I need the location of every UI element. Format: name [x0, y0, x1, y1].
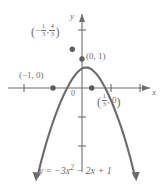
equation-term-constant: + 1	[98, 165, 112, 176]
y-intercept-label: (0, 1)	[86, 52, 106, 61]
vertex-point-label: (−13,43)	[31, 23, 59, 39]
vertex-close-paren: )	[55, 25, 59, 39]
parabola-curve	[38, 68, 135, 177]
vertex-x-denominator: 3	[41, 31, 47, 38]
vertex-x-sign: −	[35, 25, 40, 35]
x-intercept-right-close-paren: )	[117, 95, 121, 109]
equation-term-quadratic: −3x	[54, 165, 70, 176]
origin-label: 0	[71, 90, 75, 98]
equation-label: y = −3x2 − 2x + 1	[39, 165, 112, 176]
y-axis-arrowhead	[79, 14, 85, 22]
x-intercept-right-label: (13, 0)	[97, 93, 121, 109]
x-axis-label: x	[152, 88, 156, 97]
x-intercept-right-fraction: 13	[102, 93, 108, 109]
coordinate-plane	[0, 0, 166, 186]
equation-exponent: 2	[70, 164, 74, 172]
x-intercept-right-denominator: 3	[102, 101, 108, 108]
vertex-x-fraction: 13	[41, 23, 47, 39]
x-axis-arrowhead	[142, 85, 150, 91]
equation-equals: =	[46, 165, 52, 176]
point-marker-y-intercept	[79, 56, 84, 61]
point-marker-vertex	[70, 47, 75, 52]
y-axis-label: y	[70, 12, 74, 21]
graph-figure: y x 0 (−13,43) (0, 1) (−1, 0) (13, 0) y …	[0, 0, 166, 186]
equation-lhs: y	[39, 165, 43, 176]
curve-arrowhead-right	[132, 172, 140, 182]
point-marker-x-intercept-left	[50, 85, 55, 90]
point-marker-x-intercept-right	[89, 85, 94, 90]
equation-term-linear: − 2x	[76, 165, 95, 176]
x-intercept-right-open-paren: (	[97, 95, 101, 109]
x-intercept-left-label: (−1, 0)	[19, 71, 44, 80]
x-intercept-right-rest: , 0	[108, 95, 117, 105]
